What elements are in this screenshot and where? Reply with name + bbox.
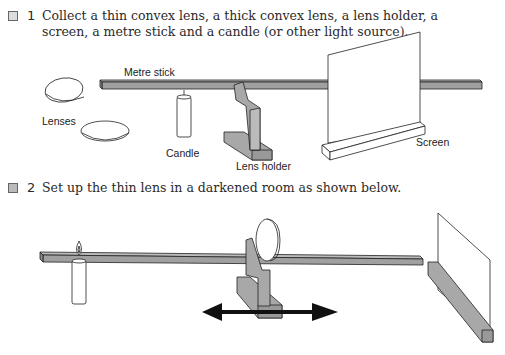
label-lenses: Lenses — [42, 115, 76, 127]
candle — [177, 90, 191, 137]
label-screen: Screen — [416, 136, 449, 148]
lens-1 — [44, 75, 85, 104]
metre-stick-2 — [40, 252, 423, 265]
lens-thin — [256, 219, 280, 261]
picture-icon — [8, 183, 18, 193]
candle-lit — [72, 241, 86, 304]
screen-2 — [428, 213, 493, 342]
label-metre-stick: Metre stick — [124, 66, 175, 78]
label-lens-holder: Lens holder — [236, 160, 291, 172]
move-arrow-icon — [202, 303, 338, 321]
lens-holder — [224, 82, 272, 160]
metre-stick — [100, 80, 482, 89]
label-candle: Candle — [166, 147, 199, 159]
step-text: Set up the thin lens in a darkened room … — [42, 180, 482, 196]
step-number: 2 — [27, 180, 35, 196]
figure-equipment — [0, 0, 505, 175]
screen — [322, 32, 425, 160]
lens-holder-2 — [237, 238, 282, 318]
lens-2 — [81, 121, 129, 141]
